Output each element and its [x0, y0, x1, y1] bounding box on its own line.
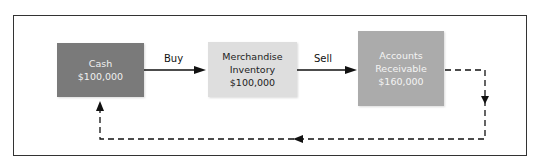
collection-dashed-arrow-icon	[96, 70, 489, 143]
buy-arrow-icon	[144, 66, 206, 74]
connector-arrows	[0, 0, 535, 160]
sell-arrow-icon	[297, 66, 357, 74]
